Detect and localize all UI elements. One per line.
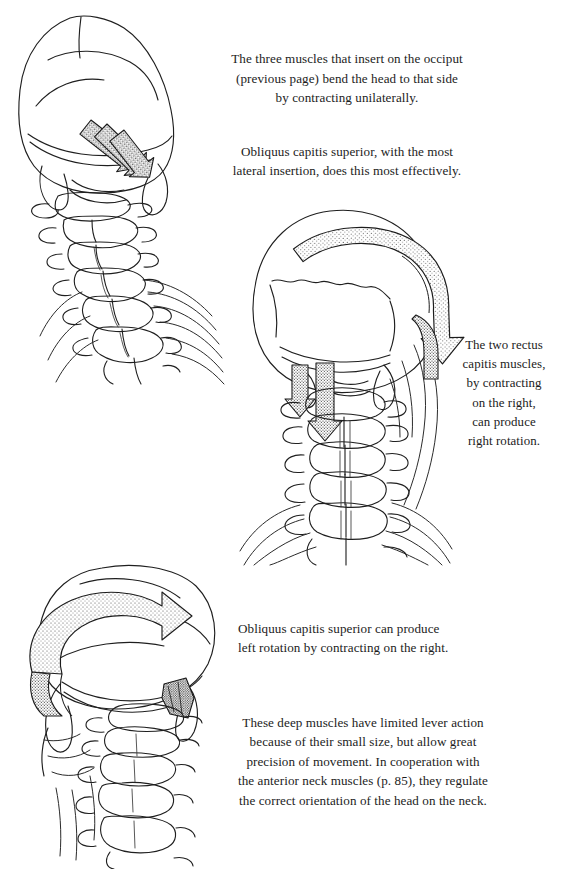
- page-canvas: The three muscles that insert on the occ…: [0, 0, 571, 869]
- intro-paragraph-1: The three muscles that insert on the occ…: [182, 49, 512, 107]
- rectus-capitis-caption: The two rectus capitis muscles, by contr…: [440, 336, 568, 451]
- intro-text-block: The three muscles that insert on the occ…: [182, 30, 512, 200]
- intro-paragraph-2: Obliquus capitis superior, with the most…: [182, 142, 512, 181]
- summary-text-block: These deep muscles have limited lever ac…: [193, 713, 533, 810]
- obliquus-capitis-caption: Obliquus capitis superior can produce le…: [238, 619, 538, 658]
